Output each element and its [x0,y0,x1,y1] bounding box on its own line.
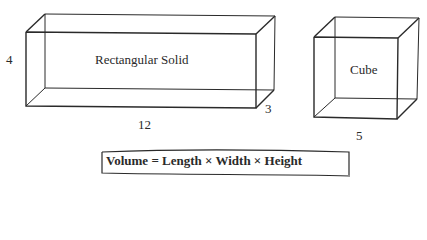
rect-width-label: 3 [265,102,272,116]
cube-side-label: 5 [356,129,363,143]
cube-name-label: Cube [350,63,377,77]
rect-name-label: Rectangular Solid [95,53,189,67]
volume-formula: Volume = Length × Width × Height [106,153,302,169]
rect-height-label: 4 [6,53,13,67]
rect-length-label: 12 [138,118,151,132]
